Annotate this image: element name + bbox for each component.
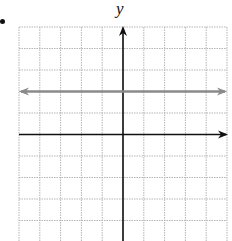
coordinate-plane <box>0 0 232 241</box>
